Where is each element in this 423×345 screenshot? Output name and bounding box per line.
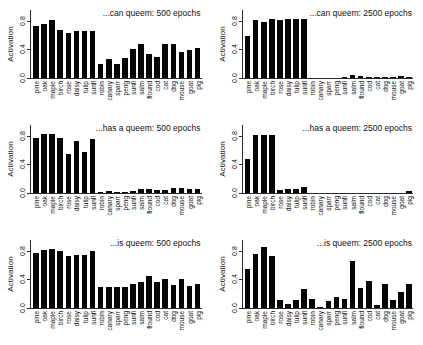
bar-slot — [260, 125, 268, 193]
x-tick-slot: rose — [64, 195, 72, 229]
y-axis-label: Activation — [5, 8, 17, 80]
bar-slot — [308, 240, 316, 308]
x-tick-label: sparr — [325, 81, 332, 96]
x-tick-label: goat — [186, 311, 193, 324]
bar — [162, 44, 168, 78]
y-tick-text: 0.4 — [18, 273, 28, 285]
y-axis-spine — [30, 125, 31, 193]
plot-area — [32, 10, 202, 78]
y-tick-text: 0.0 — [18, 302, 28, 314]
bar-slot — [56, 125, 64, 193]
x-tick-slot: mouse — [389, 195, 397, 229]
x-tick-label: robin — [309, 81, 316, 95]
x-tick-slot: cat — [161, 80, 169, 114]
x-tick-slot: salm — [349, 80, 357, 114]
bar — [138, 44, 144, 78]
y-axis-label: Activation — [5, 238, 17, 310]
bar-slot — [357, 125, 365, 193]
x-tick-label: birch — [57, 311, 64, 325]
x-tick-label: mouse — [389, 311, 396, 331]
bar-slot — [284, 125, 292, 193]
x-tick-label: cat — [373, 81, 380, 90]
bar — [162, 279, 168, 308]
y-tick-text: 0.4 — [230, 273, 240, 285]
x-tick-slot: flound — [357, 195, 365, 229]
bar-slot — [89, 10, 97, 78]
bar — [154, 190, 160, 193]
bar — [130, 284, 136, 308]
x-tick-slot: cod — [153, 80, 161, 114]
y-tick-text: 0.8 — [18, 245, 28, 257]
x-tick-label: oak — [252, 81, 259, 91]
x-tick-label: goat — [186, 196, 193, 209]
x-tick-slot: maple — [260, 310, 268, 344]
bar — [301, 187, 307, 193]
x-tick-slot: peng — [121, 195, 129, 229]
x-tick-label: sparr — [325, 311, 332, 326]
x-tick-slot: oak — [40, 310, 48, 344]
y-tick-label: 0.4 — [17, 159, 29, 169]
x-tick-label: birch — [268, 81, 275, 95]
x-tick-label: salm — [138, 196, 145, 210]
bar-slot — [405, 125, 413, 193]
y-tick-label: 0.0 — [229, 188, 241, 198]
bar — [74, 141, 80, 193]
panel-inner: ...is queem: 500 epochsActivation0.00.40… — [4, 236, 206, 343]
bar-slot — [268, 125, 276, 193]
bar — [82, 31, 88, 78]
x-tick-slot: dog — [381, 310, 389, 344]
bar — [106, 287, 112, 308]
x-tick-label: rose — [65, 81, 72, 94]
bar-slot — [129, 10, 137, 78]
bar-slot — [177, 10, 185, 78]
x-tick-label: pig — [194, 196, 201, 205]
x-tick-label: salm — [349, 196, 356, 210]
x-tick-slot: pine — [244, 80, 252, 114]
x-tick-slot: goat — [185, 80, 193, 114]
x-tick-label: tulip — [81, 311, 88, 323]
x-tick-label: birch — [268, 196, 275, 210]
x-tick-label: mouse — [178, 81, 185, 101]
x-tick-label: cat — [373, 196, 380, 205]
x-tick-slot: rose — [276, 310, 284, 344]
x-tick-label: dog — [170, 196, 177, 207]
bar — [171, 44, 177, 78]
x-tick-label: pine — [244, 311, 251, 323]
x-tick-label: maple — [49, 81, 56, 99]
x-tick-label: cat — [162, 311, 169, 320]
x-tick-slot: pig — [194, 80, 202, 114]
bar — [33, 253, 39, 308]
x-tick-slot: sparr — [324, 80, 332, 114]
x-tick-label: goat — [398, 196, 405, 209]
bar — [245, 36, 251, 78]
bar-slot — [32, 125, 40, 193]
bar-slot — [105, 125, 113, 193]
x-tick-label: canary — [317, 81, 324, 101]
bar — [122, 58, 128, 78]
x-tick-label: peng — [333, 196, 340, 210]
panel-inner: ...has a queem: 500 epochsActivation0.00… — [4, 121, 206, 228]
x-tick-label: rose — [276, 311, 283, 324]
x-tick-slot: canary — [316, 195, 324, 229]
bar — [277, 300, 283, 308]
y-tick-text: 0.8 — [230, 130, 240, 142]
y-axis-spine — [30, 240, 31, 308]
y-tick-label: 0.0 — [229, 303, 241, 313]
y-tick-labels: 0.00.40.8 — [229, 10, 241, 78]
bar-slot — [121, 125, 129, 193]
x-tick-slot: dog — [169, 310, 177, 344]
bar-slot — [121, 240, 129, 308]
bar — [138, 282, 144, 308]
x-tick-slot: tulip — [80, 310, 88, 344]
x-tick-label: pig — [406, 311, 413, 320]
bar — [293, 19, 299, 78]
bar-slot — [169, 240, 177, 308]
x-tick-slot: pig — [194, 195, 202, 229]
bar — [106, 59, 112, 78]
bar — [179, 188, 185, 193]
x-axis-spine — [30, 193, 202, 194]
x-tick-slot: daisy — [284, 195, 292, 229]
bar-slot — [97, 125, 105, 193]
x-tick-label: salm — [349, 81, 356, 95]
y-axis-spine — [30, 10, 31, 78]
